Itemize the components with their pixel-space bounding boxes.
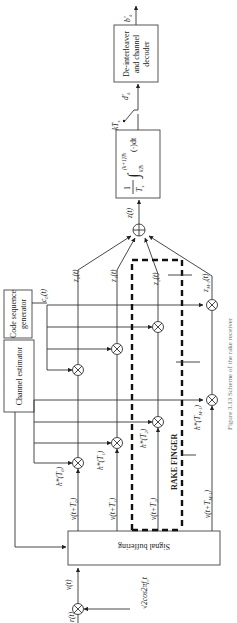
soft-decision-label: d'k — [121, 92, 131, 100]
svg-text:kTs: kTs — [138, 165, 144, 172]
delay-0-label: v(t+T₀) — [69, 497, 78, 520]
finger-0: v(t+T₀) h*(T₀) z₀(t) — [55, 236, 131, 531]
sampling-period-label: kTs — [111, 121, 121, 131]
zm-label: zM-1(t) — [201, 273, 211, 293]
delay-2-label: v(t+T₂) — [149, 497, 158, 520]
delay-1-label: v(t+T₁) — [108, 497, 117, 520]
channel-estimator-label: Channel estimator — [15, 346, 24, 405]
deinterleaver-label-3: decoder — [142, 41, 151, 67]
deinterleaver-label-2: and channel — [132, 34, 141, 73]
signal-buffering-label: Signal buffering — [118, 542, 170, 551]
deinterleaver-block: De-interleaver and channel decoder b'k — [114, 6, 158, 82]
decoded-bits-label: b'k — [123, 14, 133, 22]
rake-receiver-diagram: r(t) v(t) √2cos2πfct Signal buffering Ch… — [0, 0, 237, 623]
z2-label: z₂(t) — [151, 272, 160, 286]
weight-2-label: h*(T₂) — [139, 428, 148, 448]
svg-text:(k+1)Ts: (k+1)Ts — [121, 153, 128, 170]
baseband-signal-label: v(t) — [64, 579, 73, 590]
rake-finger-label: RAKE FINGER — [170, 434, 179, 490]
finger-1: v(t+T₁) h*(T₁) z₁(t) — [96, 238, 135, 531]
figure-caption: Figure 3.13 Scheme of the rake receiver — [226, 317, 234, 430]
weight-m-label: h*(TM-1) — [193, 404, 203, 430]
sampler: kTs d'k — [111, 84, 138, 130]
code-generator-label-1: Code sequence — [9, 289, 18, 338]
z1-label: z₁(t) — [109, 269, 118, 283]
input-path: r(t) v(t) — [64, 568, 78, 623]
deinterleaver-label-1: De-interleaver — [122, 31, 131, 78]
finger-2: v(t+T₂) h*(T₂) z₂(t) — [139, 238, 164, 531]
weight-0-label: h*(T₀) — [55, 466, 64, 486]
code-sequence-label: c₀(t) — [39, 288, 48, 302]
carrier-reference-label: √2cos2πfct — [140, 576, 150, 609]
channel-estimator-block: Channel estimator — [4, 340, 66, 547]
delay-m-label: v(t+TM-1) — [203, 490, 213, 519]
svg-text:1: 1 — [123, 186, 132, 190]
input-mixer: √2cos2πfct — [73, 576, 151, 614]
z0-label: z₀(t) — [71, 269, 80, 283]
rake-finger-box: RAKE FINGER — [132, 260, 200, 530]
sum-output-label: z(t) — [125, 208, 134, 220]
weight-1-label: h*(T₁) — [96, 450, 105, 470]
svg-text:(·)dt: (·)dt — [129, 137, 138, 152]
code-generator-label-2: generator — [19, 299, 28, 330]
integrator-block: 1 Ts ∫ (k+1)Ts kTs (·)dt — [116, 130, 160, 198]
summation-node: z(t) — [125, 200, 145, 236]
signal-buffering-block: Signal buffering — [68, 531, 220, 565]
